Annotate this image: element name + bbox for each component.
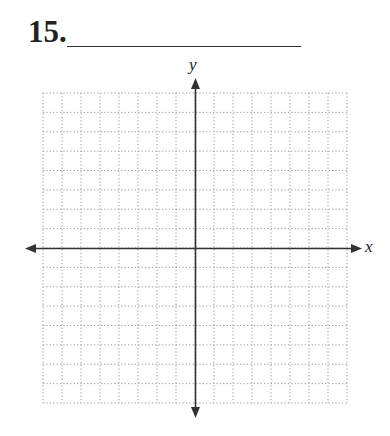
- y-axis-label: y: [189, 56, 197, 73]
- x-axis-left-arrow-icon: [25, 244, 36, 253]
- x-axis-right-arrow-icon: [351, 244, 362, 253]
- y-axis-up-arrow-icon: [191, 78, 200, 89]
- x-axis-label: x: [365, 238, 373, 255]
- y-axis-down-arrow-icon: [191, 407, 200, 418]
